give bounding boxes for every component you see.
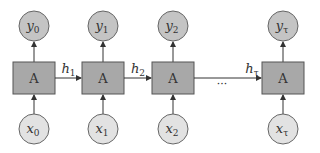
output-label-subscript: 2: [173, 25, 179, 35]
rnn-cell-label: A: [167, 71, 178, 86]
rnn-cell-label: A: [277, 71, 288, 86]
hidden-state-label-base: h: [131, 61, 139, 76]
input-label-subscript: 2: [173, 128, 179, 138]
hidden-state-label-base: h: [245, 61, 253, 76]
output-label-subscript: 1: [103, 25, 109, 35]
output-label-subscript: τ: [283, 25, 288, 35]
hidden-state-label-subscript: 1: [70, 68, 76, 78]
ellipsis: ···: [217, 78, 228, 91]
hidden-state-label-subscript: 2: [139, 68, 145, 78]
output-label-subscript: 0: [34, 25, 40, 35]
rnn-unrolled-diagram: Ay0x0Ay1x1Ay2x2Ayτxτh1h2hτ···: [0, 0, 320, 153]
input-label-subscript: τ: [283, 128, 288, 138]
hidden-state-label-base: h: [61, 61, 69, 76]
rnn-cell-label: A: [97, 71, 108, 86]
hidden-state-label-subscript: τ: [254, 68, 259, 78]
input-label-subscript: 0: [34, 128, 40, 138]
hidden-state-label: h2: [131, 61, 145, 78]
hidden-state-label: hτ: [245, 61, 258, 78]
input-label-subscript: 1: [103, 128, 109, 138]
hidden-state-label: h1: [61, 61, 75, 78]
rnn-cell-label: A: [28, 71, 39, 86]
